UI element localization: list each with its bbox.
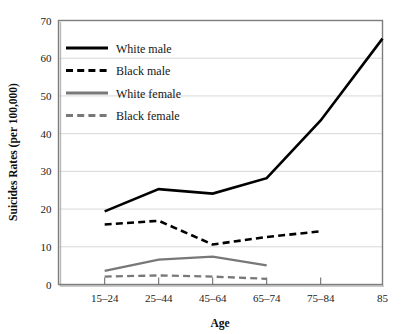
- series-line-white-female: [105, 257, 267, 271]
- x-tick-label-4: 75–84: [307, 292, 335, 304]
- x-tick-label-0: 15–24: [91, 292, 119, 304]
- chart-legend: White maleBlack maleWhite femaleBlack fe…: [66, 42, 181, 124]
- x-axis-tickmarks: [105, 278, 321, 285]
- suicide-rates-line-chart: 010203040506070 15–2425–4445–6465–7475–8…: [0, 0, 401, 334]
- x-tick-label-1: 25–44: [145, 292, 173, 304]
- legend-label-black-male: Black male: [116, 64, 170, 78]
- x-axis-tick-labels: 15–2425–4445–6465–7475–8485: [91, 292, 389, 304]
- y-axis-tick-labels: 010203040506070: [41, 15, 53, 291]
- legend-label-white-male: White male: [116, 42, 172, 56]
- y-tick-label-60: 60: [41, 52, 53, 64]
- x-tick-label-5: 85: [377, 292, 389, 304]
- x-tick-label-3: 65–74: [253, 292, 281, 304]
- series-line-black-male: [105, 221, 321, 245]
- legend-label-white-female: White female: [116, 87, 181, 101]
- y-tick-label-10: 10: [41, 241, 53, 253]
- y-axis-title: Suicides Rates (per 100,000): [7, 83, 20, 221]
- x-axis-title: Age: [210, 317, 229, 330]
- gridlines-group: [59, 21, 383, 247]
- y-tick-label-50: 50: [41, 90, 53, 102]
- y-tick-label-30: 30: [41, 165, 53, 177]
- y-tick-label-20: 20: [41, 203, 53, 215]
- y-tick-label-70: 70: [41, 15, 53, 27]
- chart-canvas: 010203040506070 15–2425–4445–6465–7475–8…: [0, 0, 401, 334]
- plot-frame: [59, 21, 385, 287]
- series-line-black-female: [105, 275, 267, 278]
- legend-label-black-female: Black female: [116, 109, 180, 123]
- x-tick-label-2: 45–64: [199, 292, 227, 304]
- y-tick-label-40: 40: [41, 128, 53, 140]
- y-tick-label-0: 0: [46, 279, 52, 291]
- plot-frame-rect: [59, 21, 383, 285]
